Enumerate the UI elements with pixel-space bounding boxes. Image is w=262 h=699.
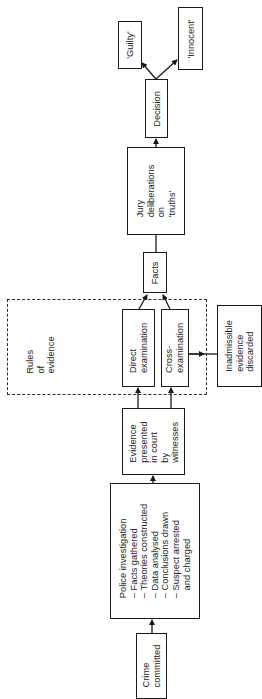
node-police-investigation: Police investigation – Facts gathered – … bbox=[110, 483, 200, 619]
node-innocent: 'Innocent' bbox=[178, 7, 203, 70]
node-decision: Decision bbox=[145, 79, 168, 138]
node-facts: Facts bbox=[143, 252, 167, 293]
node-cross-examination: Cross- examination bbox=[161, 309, 189, 387]
node-innocent-label: 'Innocent' bbox=[185, 19, 196, 58]
rules-of-evidence-label-wrap: Rules of evidence bbox=[24, 330, 58, 380]
arrow-decision-to-innocent bbox=[156, 60, 177, 79]
node-facts-label: Facts bbox=[150, 261, 161, 284]
arrow-decision-to-guilty bbox=[142, 63, 156, 79]
node-police-investigation-label: Police investigation – Facts gathered – … bbox=[118, 504, 192, 598]
node-jury-deliberations: Jury deliberations on 'truths' bbox=[127, 147, 185, 235]
node-evidence-presented: Evidence presented in court by witnesses bbox=[122, 408, 185, 475]
node-guilty-label: 'Guilty' bbox=[125, 31, 136, 58]
node-guilty: 'Guilty' bbox=[118, 21, 142, 69]
node-crime-committed: Crime committed bbox=[136, 633, 167, 699]
node-evidence-presented-label: Evidence presented in court by witnesses bbox=[127, 421, 180, 462]
node-jury-deliberations-label: Jury deliberations on 'truths' bbox=[135, 165, 177, 218]
node-crime-committed-label: Crime committed bbox=[141, 645, 162, 688]
node-inadmissible-evidence-label: Inadmissible evidence discarded bbox=[224, 320, 256, 372]
node-cross-examination-label: Cross- examination bbox=[164, 323, 185, 373]
node-direct-examination-label: Direct examination bbox=[128, 323, 149, 373]
rules-of-evidence-label: Rules of evidence bbox=[25, 336, 57, 373]
node-inadmissible-evidence: Inadmissible evidence discarded bbox=[217, 305, 262, 387]
node-direct-examination: Direct examination bbox=[122, 309, 155, 387]
node-decision-label: Decision bbox=[151, 91, 162, 127]
